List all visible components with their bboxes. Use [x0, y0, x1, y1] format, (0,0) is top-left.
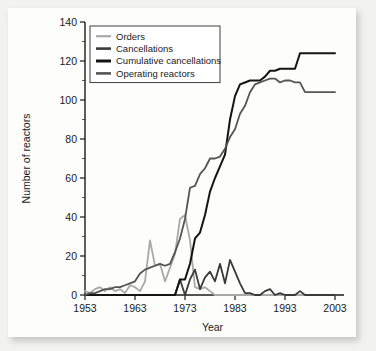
- y-tick-label: 60: [65, 172, 77, 184]
- y-tick-label: 140: [59, 16, 77, 28]
- y-tick-label: 120: [59, 55, 77, 67]
- chart-plot: 020406080100120140 195319631973198319932…: [8, 8, 356, 337]
- series-lines: [85, 53, 335, 295]
- series-line: [85, 79, 335, 295]
- legend-label: Cumulative cancellations: [116, 55, 221, 66]
- legend-label: Operating reactors: [116, 68, 195, 79]
- y-tick-label: 80: [65, 133, 77, 145]
- legend-label: Orders: [116, 31, 145, 42]
- series-line: [85, 215, 335, 295]
- series-line: [85, 53, 335, 295]
- x-tick-label: 1953: [73, 302, 97, 314]
- legend-label: Cancellations: [116, 43, 173, 54]
- x-tick-label: 1983: [223, 302, 247, 314]
- x-axis-ticks: 195319631973198319932003: [73, 295, 347, 314]
- y-tick-label: 0: [71, 289, 77, 301]
- chart-legend: OrdersCancellationsCumulative cancellati…: [90, 26, 221, 83]
- y-tick-label: 20: [65, 250, 77, 262]
- y-tick-label: 40: [65, 211, 77, 223]
- y-axis-ticks: 020406080100120140: [59, 16, 85, 301]
- series-line: [85, 260, 335, 295]
- x-axis-label: Year: [202, 321, 224, 333]
- x-tick-label: 1993: [273, 302, 297, 314]
- y-axis-label: Number of reactors: [20, 114, 32, 204]
- x-tick-label: 2003: [323, 302, 347, 314]
- figure-card: 020406080100120140 195319631973198319932…: [8, 8, 356, 337]
- x-tick-label: 1963: [123, 302, 147, 314]
- chart-svg: 020406080100120140 195319631973198319932…: [8, 8, 356, 337]
- x-tick-label: 1973: [173, 302, 197, 314]
- y-tick-label: 100: [59, 94, 77, 106]
